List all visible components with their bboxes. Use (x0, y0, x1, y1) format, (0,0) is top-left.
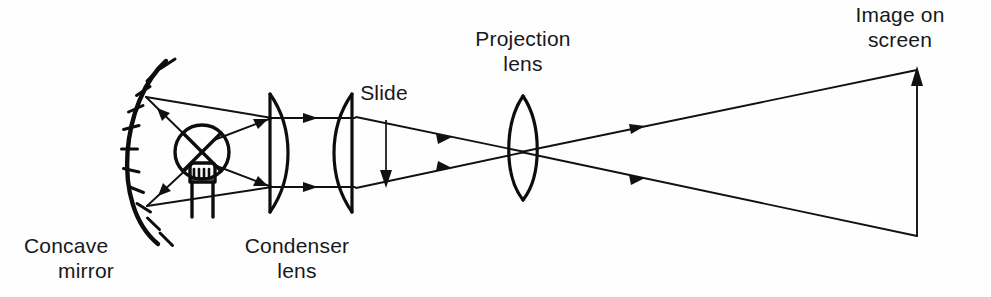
image-on-screen-arrowhead-up (911, 66, 923, 86)
rays-lamp-to-condenser (214, 118, 272, 187)
label-projection-lens-line2: lens (503, 52, 542, 75)
label-slide: Slide (360, 81, 408, 104)
rays-projection-to-screen (521, 70, 917, 236)
condenser-lens-element-1 (270, 94, 288, 212)
ray-arrowhead-collimated-upper (303, 113, 318, 123)
slide (380, 120, 392, 188)
ray-slide-to-projection-upper (356, 117, 525, 152)
ray-arrowhead-projection-to-screen-lower (629, 175, 645, 185)
concave-mirror (122, 59, 176, 246)
label-condenser-lens-line2: lens (277, 259, 316, 282)
ray-arrowhead-collimated-lower (303, 182, 318, 192)
rays-lamp-to-mirror (146, 97, 190, 206)
condenser-lens (270, 94, 352, 212)
condenser-lens-element-2 (334, 94, 352, 212)
optics-diagram-canvas: Concave mirror Condenser lens Slide Proj… (0, 0, 991, 297)
ray-arrowhead-slide-to-projection-lower (436, 161, 452, 171)
label-concave-mirror-line2: mirror (58, 259, 114, 282)
projection-lens-left-face (509, 96, 523, 200)
label-concave-mirror-line1: Concave (24, 234, 108, 257)
projection-lens (509, 96, 538, 200)
label-condenser-lens-line1: Condenser (245, 234, 350, 257)
condenser-element-2-convex-face (334, 94, 352, 212)
ray-arrowhead-projection-to-screen-upper (629, 124, 645, 134)
ray-projection-to-screen-lower (521, 152, 917, 236)
image-on-screen (911, 66, 923, 236)
label-projection-lens-line1: Projection (475, 27, 570, 50)
slide-arrowhead-down (380, 170, 392, 188)
projection-lens-right-face (523, 96, 537, 200)
lamp (175, 125, 229, 217)
label-image-on-screen-line1: Image on (855, 3, 944, 26)
ray-projection-to-screen-upper (521, 70, 917, 152)
rays-slide-to-projection (356, 117, 525, 188)
condenser-element-1-convex-face (270, 94, 288, 212)
label-image-on-screen-line2: screen (868, 28, 932, 51)
diagram-labels: Concave mirror Condenser lens Slide Proj… (24, 3, 945, 282)
optics-diagram: Concave mirror Condenser lens Slide Proj… (0, 0, 991, 297)
